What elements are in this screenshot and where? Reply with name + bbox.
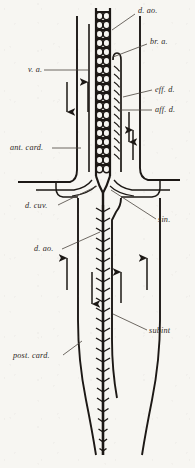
leader-br-a: [113, 44, 147, 57]
leader-d-ao-lower: [62, 232, 100, 249]
label-d-cuv: d. cuv.: [25, 201, 47, 210]
label-post-card: post. card.: [12, 351, 50, 360]
dorsal-aorta-cranial: [96, 8, 110, 176]
leader-sin: [111, 190, 156, 219]
dorsal-aorta-caudal: [96, 205, 110, 455]
label-subint: subint: [149, 326, 171, 335]
label-br-a: br. a.: [150, 37, 168, 46]
flow-arrows: [67, 82, 147, 304]
label-v-a: v. a.: [28, 65, 42, 74]
label-d-ao-lower: d. ao.: [34, 244, 54, 253]
subintestinal-vein: [112, 198, 121, 398]
posterior-cardinal-left: [78, 198, 96, 455]
leader-subint: [113, 314, 147, 330]
label-sin: sin.: [158, 215, 170, 224]
anterior-cardinal-vein: [18, 16, 78, 197]
leader-d-ao-top: [112, 14, 135, 30]
leader-eff-d: [123, 90, 152, 97]
label-aff-d: aff. d.: [155, 105, 175, 114]
branchial-arch-loop: [113, 53, 121, 172]
label-d-ao-top: d. ao.: [138, 6, 158, 15]
label-eff-d: eff. d.: [155, 85, 175, 94]
anatomical-diagram: d. ao. br. a. v. a. eff. d. aff. d. ant.…: [0, 0, 195, 468]
label-ant-card: ant. card.: [10, 143, 43, 152]
label-texts: d. ao. br. a. v. a. eff. d. aff. d. ant.…: [10, 6, 175, 360]
